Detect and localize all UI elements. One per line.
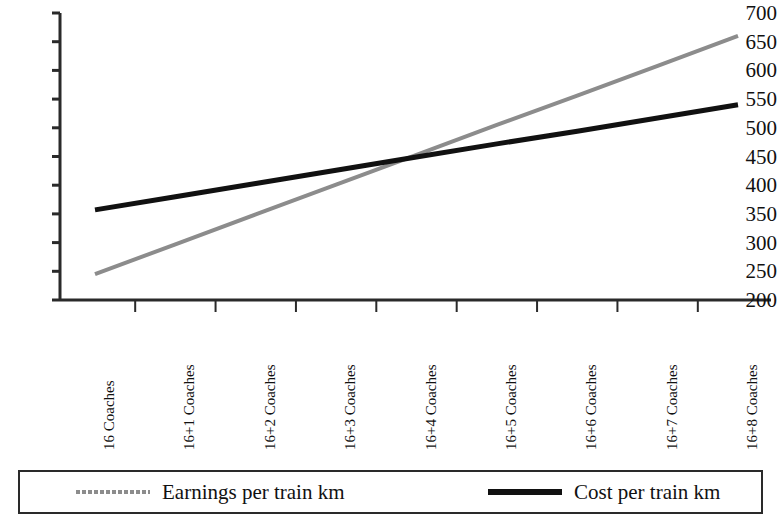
x-tick-label: 16+4 Coaches — [424, 300, 439, 450]
legend-item-earnings: Earnings per train km — [76, 478, 345, 506]
x-tick-label: 16+8 Coaches — [745, 300, 760, 450]
y-tick-label: 350 — [731, 204, 777, 225]
x-tick-label: 16+7 Coaches — [665, 300, 680, 450]
y-tick-label: 400 — [731, 175, 777, 196]
x-axis-labels: 16 Coaches16+1 Coaches16+2 Coaches16+3 C… — [0, 302, 777, 462]
line-chart: 700650600550500450400350300250200 16 Coa… — [0, 0, 777, 514]
legend-label-earnings: Earnings per train km — [162, 482, 345, 503]
y-tick-label: 550 — [731, 89, 777, 110]
x-tick-label: 16+6 Coaches — [584, 300, 599, 450]
x-tick-label: 16+5 Coaches — [504, 300, 519, 450]
plot-area: 700650600550500450400350300250200 — [0, 0, 777, 314]
y-tick-label: 250 — [731, 261, 777, 282]
legend-swatch-earnings-icon — [76, 490, 150, 494]
legend-swatch-cost-icon — [488, 489, 562, 495]
legend-item-cost: Cost per train km — [488, 478, 720, 506]
y-tick-label: 300 — [731, 233, 777, 254]
y-tick-label: 650 — [731, 32, 777, 53]
x-tick-label: 16 Coaches — [102, 300, 117, 450]
series-line-cost — [95, 105, 738, 210]
legend: Earnings per train km Cost per train km — [18, 470, 763, 514]
y-tick-label: 450 — [731, 147, 777, 168]
x-tick-label: 16+1 Coaches — [182, 300, 197, 450]
y-tick-label: 500 — [731, 118, 777, 139]
y-tick-label: 700 — [731, 3, 777, 24]
y-tick-label: 600 — [731, 60, 777, 81]
x-tick-label: 16+2 Coaches — [263, 300, 278, 450]
legend-label-cost: Cost per train km — [574, 482, 720, 503]
chart-canvas — [0, 0, 777, 314]
x-tick-label: 16+3 Coaches — [343, 300, 358, 450]
